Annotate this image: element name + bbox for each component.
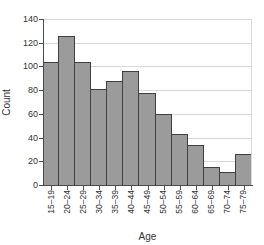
y-tick [39,43,43,44]
bar [203,167,220,185]
y-axis-title: Count [1,78,12,128]
y-tick [39,138,43,139]
x-tick-label: 60–64 [188,190,204,232]
y-tick [39,161,43,162]
bar [106,81,123,185]
bar [43,62,59,185]
y-tick [39,19,43,20]
y-tick-label: 100 [0,62,38,71]
bar [122,71,139,185]
y-tick-label: 120 [0,39,38,48]
x-tick-labels: 15–1920–2425–2930–3435–3940–4445–4950–54… [43,190,252,232]
x-tick-label: 15–19 [43,190,59,232]
bar [187,145,204,185]
x-tick-label: 45–49 [139,190,155,232]
x-axis-title: Age [43,231,252,242]
bar [155,114,172,185]
bar [235,154,252,185]
y-axis-line [43,19,44,186]
bar [74,62,91,185]
bar [219,172,236,185]
bars-group [43,19,252,185]
x-tick-label: 25–29 [75,190,91,232]
x-tick-label: 40–44 [123,190,139,232]
y-tick [39,90,43,91]
x-tick-label: 20–24 [59,190,75,232]
x-tick-label: 55–59 [172,190,188,232]
x-tick-label: 50–54 [156,190,172,232]
y-tick-label: 140 [0,15,38,24]
bar [90,89,107,185]
x-tick-label: 65–69 [204,190,220,232]
plot-area [43,19,252,185]
x-tick-label: 75–79 [236,190,252,232]
y-tick-label: 20 [0,157,38,166]
y-tick [39,114,43,115]
x-tick-label: 35–39 [107,190,123,232]
bar [138,93,155,185]
bar [171,134,188,185]
x-tick-label: 70–74 [220,190,236,232]
x-tick-label: 30–34 [91,190,107,232]
y-tick [39,185,43,186]
bar [58,36,75,185]
y-tick [39,66,43,67]
y-tick-label: 0 [0,181,38,190]
y-tick-label: 40 [0,134,38,143]
plot-right-border [251,19,252,185]
histogram-chart: 020406080100120140 15–1920–2425–2930–343… [0,0,264,245]
